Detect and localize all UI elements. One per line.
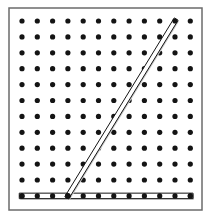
peg[interactable] [188,114,193,119]
peg[interactable] [111,50,116,55]
peg[interactable] [172,98,177,103]
peg[interactable] [142,146,147,151]
peg[interactable] [127,66,132,71]
peg[interactable] [96,50,101,55]
peg[interactable] [50,18,55,23]
peg[interactable] [188,177,193,182]
peg[interactable] [50,50,55,55]
peg[interactable] [81,18,86,23]
peg[interactable] [188,66,193,71]
peg[interactable] [19,146,24,151]
peg[interactable] [157,82,162,87]
geoboard-canvas[interactable] [0,0,210,217]
peg[interactable] [172,82,177,87]
peg[interactable] [127,162,132,167]
peg[interactable] [127,82,132,87]
peg-band-endpoint[interactable] [188,193,193,198]
peg[interactable] [35,50,40,55]
peg[interactable] [142,98,147,103]
peg[interactable] [142,82,147,87]
peg[interactable] [127,50,132,55]
horizontal-band-strip[interactable] [19,193,193,199]
peg[interactable] [65,18,70,23]
peg[interactable] [50,34,55,39]
peg[interactable] [157,193,162,198]
peg[interactable] [50,98,55,103]
peg[interactable] [50,162,55,167]
peg[interactable] [172,66,177,71]
peg[interactable] [35,130,40,135]
peg[interactable] [50,114,55,119]
peg[interactable] [65,130,70,135]
peg[interactable] [35,114,40,119]
peg[interactable] [111,193,116,198]
angle-vertex-peg[interactable] [65,193,70,198]
horizontal-band[interactable] [19,193,194,200]
peg[interactable] [142,50,147,55]
peg[interactable] [127,193,132,198]
peg[interactable] [19,66,24,71]
peg[interactable] [157,146,162,151]
peg[interactable] [142,162,147,167]
peg-band-endpoint[interactable] [172,18,177,23]
peg[interactable] [127,130,132,135]
peg[interactable] [35,98,40,103]
peg[interactable] [50,66,55,71]
peg[interactable] [188,98,193,103]
peg[interactable] [188,82,193,87]
peg[interactable] [172,114,177,119]
peg[interactable] [81,50,86,55]
peg[interactable] [50,193,55,198]
peg[interactable] [96,82,101,87]
peg[interactable] [19,18,24,23]
peg[interactable] [35,66,40,71]
peg[interactable] [19,50,24,55]
peg[interactable] [19,177,24,182]
peg[interactable] [157,66,162,71]
peg[interactable] [188,130,193,135]
peg[interactable] [157,114,162,119]
peg[interactable] [142,34,147,39]
peg[interactable] [19,162,24,167]
peg[interactable] [81,146,86,151]
peg[interactable] [81,34,86,39]
peg[interactable] [188,18,193,23]
peg[interactable] [96,34,101,39]
peg[interactable] [50,130,55,135]
peg[interactable] [65,114,70,119]
peg[interactable] [142,177,147,182]
peg[interactable] [35,34,40,39]
peg[interactable] [188,146,193,151]
peg[interactable] [96,162,101,167]
peg[interactable] [172,146,177,151]
peg[interactable] [81,98,86,103]
peg[interactable] [142,130,147,135]
peg[interactable] [157,177,162,182]
peg[interactable] [127,18,132,23]
peg[interactable] [65,177,70,182]
peg[interactable] [172,34,177,39]
peg[interactable] [19,114,24,119]
peg[interactable] [172,162,177,167]
peg[interactable] [111,98,116,103]
peg[interactable] [81,66,86,71]
peg[interactable] [142,18,147,23]
peg[interactable] [142,193,147,198]
peg[interactable] [65,50,70,55]
peg[interactable] [111,82,116,87]
peg[interactable] [19,130,24,135]
peg[interactable] [35,146,40,151]
peg[interactable] [65,98,70,103]
peg[interactable] [35,193,40,198]
peg[interactable] [157,18,162,23]
peg[interactable] [19,82,24,87]
peg[interactable] [188,50,193,55]
peg[interactable] [35,162,40,167]
peg[interactable] [35,18,40,23]
peg[interactable] [19,34,24,39]
peg[interactable] [81,193,86,198]
peg[interactable] [157,130,162,135]
peg[interactable] [81,130,86,135]
peg[interactable] [96,193,101,198]
peg[interactable] [65,82,70,87]
